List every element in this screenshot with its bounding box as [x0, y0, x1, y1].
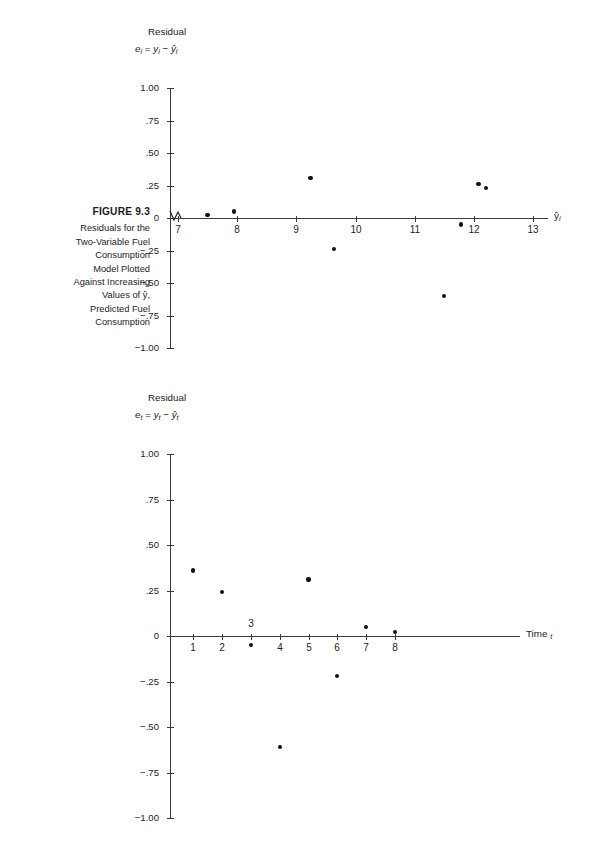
- y-axis-tick: [167, 818, 174, 819]
- figure-9-3-label: FIGURE 9.3: [10, 205, 150, 218]
- y-axis-tick: [167, 500, 174, 501]
- x-axis-tick-label: 2: [210, 642, 234, 653]
- x-axis-tick-label: 5: [297, 642, 321, 653]
- y-axis-tick: [167, 773, 174, 774]
- y-axis-tick: [167, 727, 174, 728]
- x-axis-tick-label: 11: [403, 224, 427, 235]
- caption-line: Two-Variable Fuel: [10, 236, 150, 249]
- data-point: [364, 625, 368, 629]
- x-axis-tick-label: 9: [284, 224, 308, 235]
- x-axis-tick: [533, 216, 534, 222]
- y-axis-tick-label: .50: [113, 147, 159, 158]
- residual-vs-time-scatter-plot: −1.00−.75−.50−.250.25.50.751.0012345678R…: [0, 368, 603, 838]
- data-point: [442, 294, 446, 298]
- y-axis-tick: [167, 153, 174, 154]
- data-point: [335, 674, 339, 678]
- figure-9-4: −1.00−.75−.50−.250.25.50.751.0012345678R…: [0, 368, 603, 838]
- y-axis-tick-label: −.50: [113, 721, 159, 732]
- y-axis-tick-label: −1.00: [113, 812, 159, 823]
- x-axis-tick: [222, 634, 223, 640]
- x-axis-tick: [296, 216, 297, 222]
- figure-9-3-caption: FIGURE 9.3 Residuals for the Two-Variabl…: [10, 205, 150, 330]
- x-axis-tick: [337, 634, 338, 640]
- data-point: [220, 590, 224, 594]
- x-axis-title: Time t: [526, 628, 552, 641]
- x-axis-tick: [356, 216, 357, 222]
- y-axis-tick: [167, 348, 174, 349]
- x-axis-tick-label: 3: [239, 618, 263, 629]
- data-point: [306, 577, 310, 581]
- y-axis-tick: [167, 186, 174, 187]
- data-point: [476, 182, 480, 186]
- caption-line: Consumption: [10, 316, 150, 329]
- y-axis-tick: [167, 636, 174, 637]
- data-point: [393, 630, 397, 634]
- caption-line: Predicted Fuel: [10, 303, 150, 316]
- data-point: [205, 213, 209, 217]
- x-axis-tick: [474, 216, 475, 222]
- caption-line: Model Plotted: [10, 263, 150, 276]
- axis-break-icon: [169, 209, 185, 227]
- data-point: [232, 209, 236, 213]
- y-axis-tick: [167, 283, 174, 284]
- chart-header-residual: Residual: [148, 26, 186, 37]
- x-axis-title: ŷi: [554, 210, 561, 223]
- x-axis-tick-label: 8: [383, 642, 407, 653]
- data-point: [278, 745, 282, 749]
- x-axis-tick: [251, 634, 252, 640]
- caption-line: Against Increasing: [10, 276, 150, 289]
- y-axis-tick-label: .25: [113, 180, 159, 191]
- chart-header-residual: Residual: [148, 392, 186, 403]
- y-axis-tick-label: 1.00: [113, 448, 159, 459]
- x-axis-tick-label: 7: [354, 642, 378, 653]
- y-axis-tick-label: .75: [113, 494, 159, 505]
- caption-line: Consumption: [10, 249, 150, 262]
- x-axis-tick: [395, 634, 396, 640]
- figure-9-3: −1.00−.75−.50−.250.25.50.751.00789101112…: [0, 0, 603, 390]
- x-axis-tick-label: 12: [462, 224, 486, 235]
- x-axis-tick: [280, 634, 281, 640]
- y-axis-tick: [167, 121, 174, 122]
- data-point: [332, 247, 336, 251]
- x-axis-tick: [193, 634, 194, 640]
- data-point: [459, 222, 463, 226]
- x-axis-tick-label: 4: [268, 642, 292, 653]
- y-axis-tick-label: .25: [113, 585, 159, 596]
- x-axis-tick: [237, 216, 238, 222]
- x-axis-tick: [366, 634, 367, 640]
- chart-header-formula: et = yt − ŷt: [135, 409, 179, 422]
- data-point: [308, 176, 312, 180]
- data-point: [484, 186, 488, 190]
- x-axis-tick-label: 10: [344, 224, 368, 235]
- y-axis-tick: [167, 251, 174, 252]
- page: −1.00−.75−.50−.250.25.50.751.00789101112…: [0, 0, 603, 856]
- y-axis-tick-label: .50: [113, 539, 159, 550]
- y-axis-tick-label: 0: [113, 630, 159, 641]
- caption-line: Values of ŷ,: [10, 289, 150, 302]
- y-axis-tick: [167, 682, 174, 683]
- data-point: [249, 643, 253, 647]
- y-axis-tick-label: −.75: [113, 767, 159, 778]
- caption-line: Residuals for the: [10, 222, 150, 235]
- x-axis-tick-label: 1: [181, 642, 205, 653]
- chart-header-formula: ei = yi − ŷi: [135, 43, 177, 56]
- data-point: [191, 568, 195, 572]
- x-axis-tick: [415, 216, 416, 222]
- y-axis-tick-label: 1.00: [113, 82, 159, 93]
- y-axis-tick: [167, 545, 174, 546]
- y-axis-tick: [167, 316, 174, 317]
- y-axis-tick: [167, 591, 174, 592]
- x-axis-tick-label: 13: [521, 224, 545, 235]
- y-axis-tick: [167, 454, 174, 455]
- y-axis-tick-label: −.25: [113, 676, 159, 687]
- y-axis-tick-label: .75: [113, 115, 159, 126]
- x-axis-tick: [309, 634, 310, 640]
- x-axis-tick-label: 8: [225, 224, 249, 235]
- x-axis: [170, 218, 548, 219]
- y-axis-tick: [167, 88, 174, 89]
- y-axis-tick-label: −1.00: [113, 342, 159, 353]
- x-axis-tick-label: 6: [325, 642, 349, 653]
